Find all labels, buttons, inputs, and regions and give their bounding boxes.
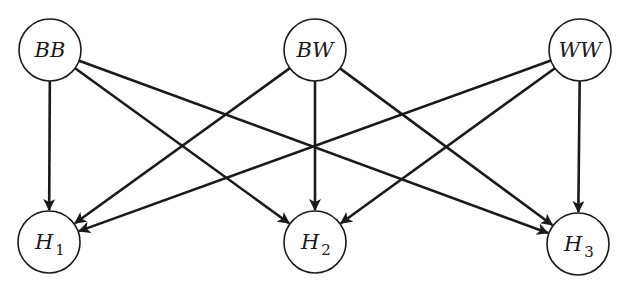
node-bb: BB — [19, 19, 81, 81]
edge-bb-to-h1 — [49, 81, 50, 210]
node-bw: BW — [284, 19, 346, 81]
node-ww: WW — [549, 19, 611, 81]
diagram-canvas: BBBWWWH1H2H3 — [0, 0, 630, 284]
node-label: BB — [34, 38, 66, 62]
node-h2: H2 — [284, 211, 346, 273]
edges-group — [49, 61, 580, 233]
node-h3: H3 — [547, 213, 609, 275]
node-h1: H1 — [18, 211, 80, 273]
node-label: WW — [558, 38, 604, 62]
node-label: BW — [295, 38, 335, 62]
edge-ww-to-h3 — [578, 81, 579, 212]
